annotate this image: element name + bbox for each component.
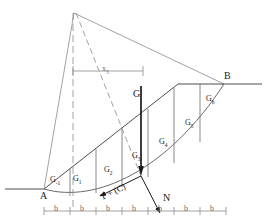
slice-label-g2: G2 (104, 166, 113, 176)
slice-label-sub: 3 (138, 156, 141, 162)
slice-label-sub: -1 (56, 180, 61, 186)
point-label-a: A (40, 191, 47, 201)
dimension-label-b-1: b (54, 205, 58, 213)
slice-label-g-minus-1: G-1 (50, 176, 60, 186)
slice-label-sub: 5 (191, 123, 194, 129)
lever-arm-label-sub: 3 (106, 69, 109, 75)
slice-label-g6: G6 (206, 95, 215, 105)
slice-label-g4: G4 (159, 138, 168, 148)
slip-surface-arc (44, 84, 224, 192)
lever-arm-label-x3: x3 (102, 65, 109, 75)
dimension-label-b-2: b (80, 205, 84, 213)
slope-stability-figure: A B G N T + (C) G-1 G1 G2 G3 G4 G5 G6 x3… (0, 0, 265, 223)
point-label-b: B (224, 71, 231, 81)
slice-label-sub: 2 (110, 170, 113, 176)
force-label-n: N (163, 193, 170, 203)
weight-label-g: G (133, 89, 140, 99)
slice-label-sub: 1 (79, 179, 82, 185)
radius-line-to-a (44, 13, 74, 189)
slice-label-g3: G3 (132, 152, 141, 162)
radius-line-to-b (74, 13, 224, 84)
slice-label-sub: 4 (165, 142, 168, 148)
slice-label-g5: G5 (185, 119, 194, 129)
slice-label-sub: 6 (212, 99, 215, 105)
dimension-label-b-3: b (106, 205, 110, 213)
slice-label-g1: G1 (73, 175, 82, 185)
dimension-label-b-4: b (132, 205, 136, 213)
dimension-label-b-5: b (158, 205, 162, 213)
dimension-label-b-7: b (210, 205, 214, 213)
dimension-label-b-6: b (184, 205, 188, 213)
